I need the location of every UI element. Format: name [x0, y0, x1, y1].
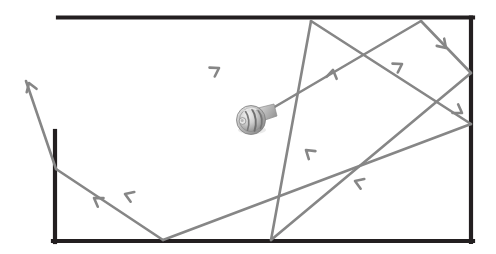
robot-icon: [237, 104, 278, 135]
arrowhead-up-left-1: [125, 192, 134, 202]
segment-turn-3: [56, 169, 163, 240]
segment-outbound-1: [266, 21, 421, 112]
segment-exit: [26, 81, 56, 169]
segment-return-2: [163, 124, 471, 240]
diagram-canvas: [0, 0, 496, 254]
robot-lens-inner: [241, 119, 244, 122]
segment-return-1: [271, 73, 471, 240]
arrowhead-exit-tip: [27, 83, 37, 92]
coverage-path-diagram: [0, 0, 496, 254]
arrowhead-up-right-1: [210, 68, 219, 77]
arrowhead-down-left-1: [306, 150, 315, 159]
arrowhead-up-left-2: [94, 198, 104, 207]
arrowhead-up-right-3: [393, 64, 402, 73]
segment-turn-2: [271, 21, 311, 240]
arrowhead-down-left-2: [355, 179, 364, 189]
